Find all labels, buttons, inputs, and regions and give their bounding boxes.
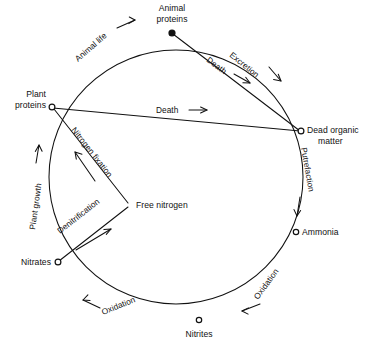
edge-oxidation-ammonia-nitrites: Oxidation xyxy=(242,266,281,314)
node-label-dead-organic-matter-line2: matter xyxy=(318,136,343,146)
node-marker-plant-proteins[interactable] xyxy=(49,104,55,110)
edge-arrow-shaft-death-upper xyxy=(234,74,250,83)
edge-label-denitrification: Denitrification xyxy=(55,196,102,235)
node-marker-ammonia[interactable] xyxy=(293,229,298,234)
node-marker-dead-organic-matter[interactable] xyxy=(298,128,304,134)
node-label-dead-organic-matter-line1: Dead organic xyxy=(307,125,359,135)
edge-line-denitrification xyxy=(59,207,128,261)
edge-arrow-head-oxidation-bottom xyxy=(83,295,90,301)
node-label-animal-proteins-line1: Animal xyxy=(159,3,186,13)
edge-label-animal-life: Animal life xyxy=(73,30,109,63)
node-label-ammonia: Ammonia xyxy=(302,227,339,237)
node-label-plant-proteins-line2: proteins xyxy=(15,100,46,110)
edge-label-excretion: Excretion xyxy=(228,50,262,80)
edge-line-death-upper xyxy=(173,34,300,131)
node-label-free-nitrogen: Free nitrogen xyxy=(136,200,188,210)
edge-nitrogen-fixation: Nitrogen fixation xyxy=(69,125,115,181)
edge-arrow-shaft-excretion xyxy=(269,67,281,81)
node-label-nitrates: Nitrates xyxy=(21,257,51,267)
node-marker-nitrates[interactable] xyxy=(55,259,61,265)
edge-animal-life: Animal life xyxy=(73,17,135,64)
edge-arrow-head-oxidation-right xyxy=(242,308,248,314)
edge-death-lower: Death xyxy=(156,105,207,115)
node-label-animal-proteins-line2: proteins xyxy=(157,14,188,24)
node-label-nitrites: Nitrites xyxy=(185,329,212,339)
edge-arrow-shaft-denitrification xyxy=(76,229,111,250)
edge-arrow-shaft-oxidation-bottom xyxy=(83,300,100,308)
edge-label-death-upper: Death xyxy=(205,55,229,77)
node-marker-nitrites[interactable] xyxy=(196,317,201,322)
edge-label-plant-growth: Plant growth xyxy=(27,182,43,230)
edge-label-oxidation-bottom: Oxidation xyxy=(100,294,137,317)
edge-arrow-head-animal-life xyxy=(129,17,135,24)
cycle-circle xyxy=(49,50,303,304)
edge-oxidation-nitrites-nitrates: Oxidation xyxy=(83,294,137,317)
edge-label-oxidation-right: Oxidation xyxy=(252,266,281,301)
nitrogen-cycle-diagram: Animal proteins Plant proteins Dead orga… xyxy=(0,0,373,345)
node-marker-animal-proteins[interactable] xyxy=(169,30,175,36)
edge-label-putrefaction: Putrefaction xyxy=(299,147,317,193)
edge-plant-growth: Plant growth xyxy=(27,145,43,230)
edge-label-death-lower: Death xyxy=(156,105,179,115)
node-label-plant-proteins-line1: Plant xyxy=(26,89,46,99)
edge-putrefaction: Putrefaction xyxy=(294,147,317,216)
diagram-canvas: Animal proteins Plant proteins Dead orga… xyxy=(0,0,373,345)
